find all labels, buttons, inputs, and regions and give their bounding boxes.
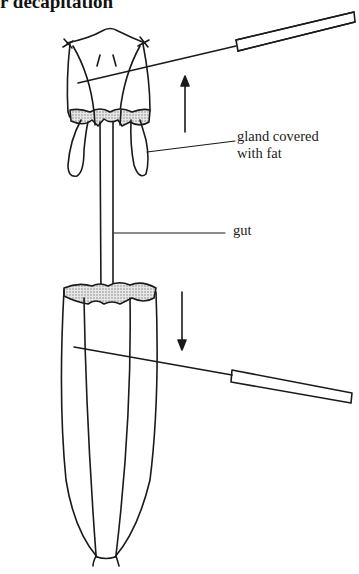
up-arrow-icon [181, 76, 189, 132]
lower-pin [74, 347, 352, 403]
gland-leader-line [147, 141, 235, 152]
gut-label: gut [233, 222, 252, 239]
dissection-diagram [0, 0, 359, 574]
down-arrow-icon [178, 292, 186, 350]
gland-label: gland covered with fat [237, 128, 319, 162]
body-part [61, 283, 157, 566]
gland-lobes [68, 120, 148, 176]
head-part [63, 29, 150, 127]
gland-label-line1: gland covered [237, 128, 319, 145]
gland-label-line2: with fat [237, 145, 319, 162]
gut-tube [100, 122, 113, 300]
upper-pin [78, 12, 355, 83]
